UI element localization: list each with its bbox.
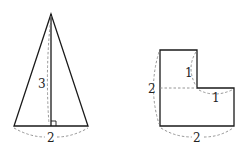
base-dimension-arc-left: [14, 128, 45, 137]
triangle-base-label: 2: [47, 131, 55, 145]
notch-width-label: 1: [212, 91, 220, 105]
bottom-side-label: 2: [193, 131, 201, 145]
bottom-arc-right: [204, 128, 233, 137]
l-shape-figure: 1 1 2 2: [148, 50, 234, 145]
right-angle-mark: [51, 121, 56, 126]
diagram-canvas: 3 2 1 1 2 2: [0, 0, 247, 148]
left-side-label: 2: [148, 82, 156, 96]
notch-height-label: 1: [185, 66, 193, 80]
bottom-arc-left: [161, 128, 192, 137]
base-dimension-arc-right: [57, 128, 88, 137]
triangle-figure: 3 2: [14, 14, 88, 145]
triangle-height-label: 3: [38, 77, 46, 91]
